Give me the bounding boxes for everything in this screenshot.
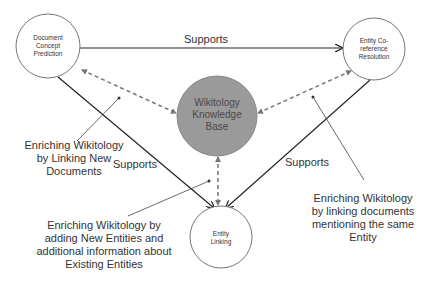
pointer-note-el	[128, 181, 209, 216]
edge-label-ecr-el: Supports	[285, 156, 329, 168]
pointer-note-dcp	[77, 98, 119, 141]
note-linking-documents-same-entity: Enriching Wikitology by linking document…	[303, 192, 423, 244]
note-adding-new-entities: Enriching Wikitology by adding New Entit…	[30, 219, 178, 271]
label-ecr: Entity Co- reference Resolution	[344, 37, 404, 61]
label-el: Entity Linking	[196, 230, 246, 246]
note-linking-new-documents: Enriching Wikitology by Linking New Docu…	[14, 139, 134, 178]
label-kb: Wikitology Knowledge Base	[182, 97, 252, 133]
edge-kb-ecr	[258, 71, 351, 113]
edge-kb-dcp	[82, 70, 176, 113]
edge-label-dcp-ecr: Supports	[184, 33, 228, 45]
label-dcp: Document Concept Prediction	[18, 34, 78, 58]
